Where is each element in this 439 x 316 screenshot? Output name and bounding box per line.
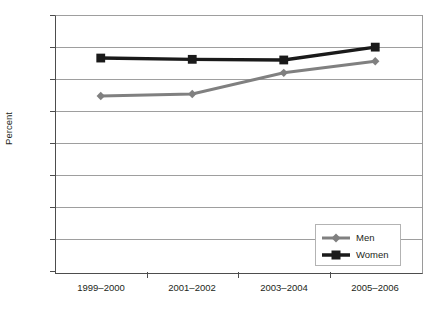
legend-label-women: Women [356,250,389,260]
gridline [56,207,422,208]
gridline [56,111,422,112]
y-tick-mark [50,47,55,48]
y-tick-mark [50,143,55,144]
y-tick-mark [50,239,55,240]
x-tick-label: 2003–2004 [234,283,334,293]
legend-item-women: Women [321,246,395,263]
gridline [56,79,422,80]
y-tick-mark [50,175,55,176]
x-tick-label: 2001–2002 [142,283,242,293]
y-tick-mark [50,207,55,208]
women-line-swatch-icon [321,249,351,261]
y-tick-mark [50,15,55,16]
legend: Men Women [315,224,401,266]
y-axis-title: Percent [0,0,16,257]
x-tick-mark [147,272,148,278]
y-tick-mark [50,271,55,272]
gridline [56,47,422,48]
x-tick-mark [238,272,239,278]
gridline [56,143,422,144]
gridline [56,175,422,176]
y-axis-title-label: Percent [3,112,14,145]
legend-label-men: Men [356,233,374,243]
y-tick-mark [50,111,55,112]
legend-item-men: Men [321,229,395,246]
x-tick-label: 1999–2000 [51,283,151,293]
x-tick-label: 2005–2006 [325,283,425,293]
x-tick-mark [330,272,331,278]
line-chart: Percent 40 35 30 25 20 15 10 5 0 1999–20… [0,0,439,316]
men-line-swatch-icon [321,232,351,244]
y-tick-mark [50,79,55,80]
gridline [56,15,422,16]
